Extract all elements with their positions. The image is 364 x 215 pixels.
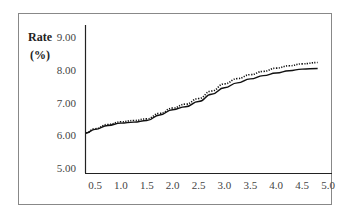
series-line-solid [86,68,318,133]
rate-line-chart: Rate (%) 5.006.007.008.009.00 0.51.01.52… [0,0,364,215]
x-tick-label: 3.0 [218,179,232,191]
svg-text:(%): (%) [30,48,50,62]
x-tick-label: 1.0 [114,179,128,191]
x-tick-label: 2.0 [166,179,180,191]
series-line-dotted [86,63,318,133]
y-tick-label: 9.00 [57,31,77,43]
x-tick-label: 3.5 [243,179,257,191]
x-tick-label: 0.5 [88,179,102,191]
x-tick-label: 4.0 [269,179,283,191]
y-tick-label: 5.00 [57,162,77,174]
y-axis-label: Rate (%) [28,30,53,62]
y-axis-ticks: 5.006.007.008.009.00 [57,31,77,174]
y-tick-label: 8.00 [57,64,77,76]
data-series [86,63,318,133]
x-tick-label: 4.5 [295,179,309,191]
x-tick-label: 2.5 [192,179,206,191]
y-tick-label: 6.00 [57,129,77,141]
y-tick-label: 7.00 [57,97,77,109]
svg-text:Rate: Rate [28,30,53,44]
x-tick-label: 5.0 [321,179,335,191]
x-tick-label: 1.5 [140,179,154,191]
x-axis-ticks: 0.51.01.52.02.53.03.54.04.55.0 [88,179,335,191]
